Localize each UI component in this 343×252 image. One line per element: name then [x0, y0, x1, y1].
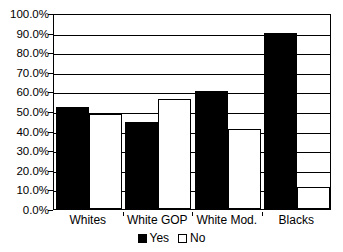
plot-area	[53, 14, 331, 210]
chart-legend: YesNo	[0, 232, 343, 244]
y-axis-tick-label: 20.0%	[0, 165, 49, 176]
bar-white-mod-no	[228, 129, 261, 209]
bar-white-gop-yes	[125, 122, 158, 209]
x-axis-tick-label: Whites	[53, 212, 123, 228]
x-axis-tick-mark	[192, 212, 193, 216]
legend-swatch-yes-icon	[138, 234, 147, 243]
y-axis-tick-label: 30.0%	[0, 146, 49, 157]
x-axis-tick-mark	[123, 212, 124, 216]
bar-chart: 0.0%10.0%20.0%30.0%40.0%50.0%60.0%70.0%8…	[0, 0, 343, 252]
y-axis-tick-label: 70.0%	[0, 67, 49, 78]
y-axis-tick-mark	[48, 210, 53, 211]
x-axis-tick-mark	[262, 212, 263, 216]
legend-item-no: No	[178, 232, 205, 244]
bar-blacks-no	[297, 187, 330, 209]
bar-blacks-yes	[264, 33, 297, 209]
y-axis-tick-label: 50.0%	[0, 107, 49, 118]
y-axis-tick-label: 60.0%	[0, 87, 49, 98]
x-axis-tick-label: White Mod.	[192, 212, 262, 228]
x-axis-tick-label: Blacks	[262, 212, 332, 228]
x-axis: WhitesWhite GOPWhite Mod.Blacks	[53, 212, 331, 230]
y-axis: 0.0%10.0%20.0%30.0%40.0%50.0%60.0%70.0%8…	[0, 0, 49, 252]
y-axis-tick-label: 80.0%	[0, 48, 49, 59]
x-axis-tick-label: White GOP	[123, 212, 193, 228]
y-axis-tick-label: 90.0%	[0, 28, 49, 39]
y-axis-tick-label: 100.0%	[0, 9, 49, 20]
y-axis-tick-label: 40.0%	[0, 126, 49, 137]
legend-swatch-no-icon	[178, 234, 187, 243]
legend-label: No	[190, 232, 205, 244]
y-axis-tick-label: 10.0%	[0, 185, 49, 196]
y-axis-tick-label: 0.0%	[0, 205, 49, 216]
legend-item-yes: Yes	[138, 232, 170, 244]
legend-label: Yes	[150, 232, 170, 244]
bar-white-gop-no	[158, 99, 191, 209]
bar-whites-no	[89, 114, 122, 209]
bar-whites-yes	[56, 107, 89, 209]
bar-white-mod-yes	[195, 91, 228, 209]
